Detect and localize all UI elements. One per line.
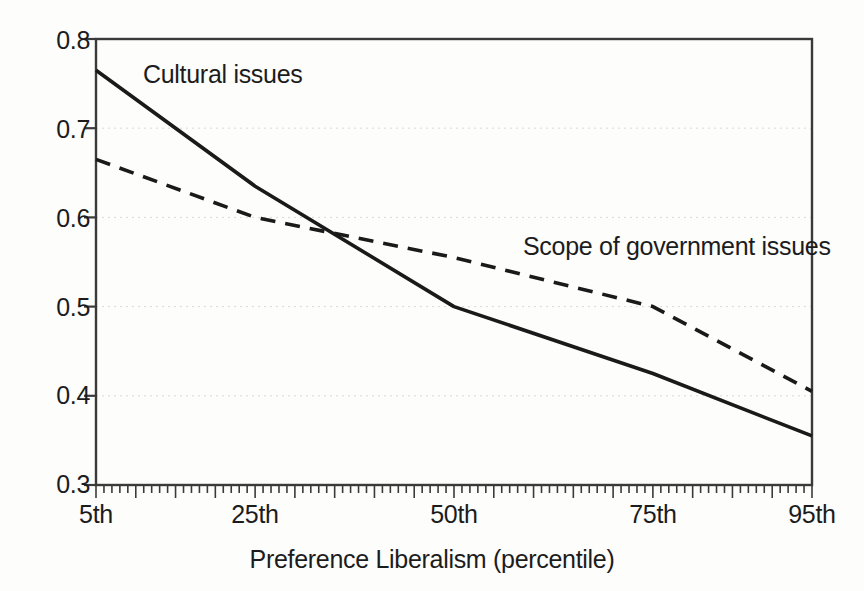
ytick-label: 0.4	[20, 381, 90, 410]
chart-figure: 0.8 0.7 0.6 0.5 0.4 0.3 5th 25th 50th 75…	[0, 0, 864, 591]
xtick-label-50th: 50th	[394, 500, 514, 529]
ytick-label: 0.5	[20, 293, 90, 322]
ytick-label: 0.6	[20, 204, 90, 233]
ytick-label: 0.3	[20, 470, 90, 499]
series-label-cultural-issues: Cultural issues	[143, 60, 302, 89]
y-axis-tick-marks	[84, 39, 96, 485]
series-label-scope-of-government-issues: Scope of government issues	[523, 232, 831, 261]
xtick-label-5th: 5th	[36, 500, 156, 529]
xtick-label-95th: 95th	[752, 500, 864, 529]
x-axis-title: Preference Liberalism (percentile)	[0, 545, 864, 574]
series-line-scope-of-government-issues	[96, 159, 812, 391]
xtick-label-25th: 25th	[195, 500, 315, 529]
plot-border	[96, 39, 812, 485]
xtick-label-75th: 75th	[593, 500, 713, 529]
ytick-label: 0.7	[20, 115, 90, 144]
ytick-label: 0.8	[20, 26, 90, 55]
axis-frame	[96, 39, 812, 485]
gridlines	[96, 39, 812, 396]
x-axis-minor-ticks	[96, 485, 812, 498]
